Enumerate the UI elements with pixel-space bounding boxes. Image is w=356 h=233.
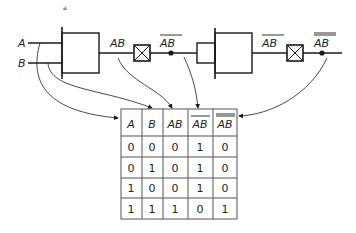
svg-text:1: 1: [149, 203, 156, 216]
logic-diagram: a A B AB AB AB AB: [0, 0, 356, 233]
svg-text:1: 1: [128, 203, 135, 216]
svg-text:1: 1: [128, 182, 135, 195]
inverter-2-icon: [287, 45, 303, 61]
and-gate-2: [197, 28, 252, 79]
svg-text:0: 0: [172, 162, 179, 175]
and-gate-1: [62, 27, 99, 79]
inverter-1-icon: [134, 45, 150, 61]
header-b: B: [148, 118, 156, 131]
svg-text:0: 0: [172, 182, 179, 195]
svg-text:0: 0: [222, 162, 229, 175]
header-a: A: [126, 118, 135, 131]
gate2-output-label: AB: [261, 37, 277, 50]
svg-text:0: 0: [128, 162, 135, 175]
svg-text:1: 1: [222, 203, 229, 216]
junction-dot-2: [319, 50, 324, 55]
svg-text:1: 1: [149, 162, 156, 175]
final-output-label: AB: [313, 37, 329, 50]
svg-text:0: 0: [222, 182, 229, 195]
junction-dot-1: [168, 50, 173, 55]
header-ab: AB: [166, 118, 182, 131]
svg-text:0: 0: [149, 182, 156, 195]
input-a-label: A: [17, 37, 26, 50]
svg-text:1: 1: [197, 182, 204, 195]
header-double-not: AB: [216, 118, 232, 131]
svg-text:1: 1: [197, 162, 204, 175]
svg-text:0: 0: [128, 141, 135, 154]
svg-text:1: 1: [172, 203, 179, 216]
and-output-label: AB: [109, 37, 125, 50]
svg-text:0: 0: [172, 141, 179, 154]
stray-mark: a: [63, 4, 67, 11]
svg-text:0: 0: [149, 141, 156, 154]
svg-text:0: 0: [222, 141, 229, 154]
input-b-label: B: [18, 57, 26, 70]
header-nand: AB: [191, 118, 207, 131]
nand-output-label: AB: [159, 37, 175, 50]
svg-text:0: 0: [197, 203, 204, 216]
mapping-arrows: [37, 43, 327, 118]
svg-text:1: 1: [197, 141, 204, 154]
